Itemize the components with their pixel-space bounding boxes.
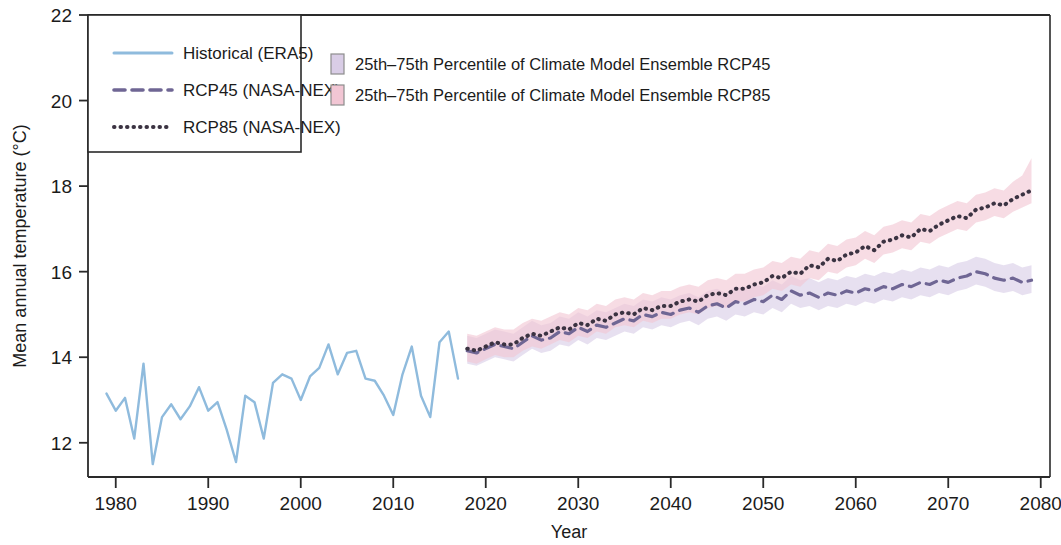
legend-layer: Historical (ERA5)RCP45 (NASA-NEX)RCP85 (… (0, 0, 1061, 545)
chart-page: 1214161820221980199020002010202020302040… (0, 0, 1061, 545)
legend-swatch-rcp85-band (331, 85, 344, 105)
legend-label-rcp45: RCP45 (NASA-NEX) (183, 81, 341, 100)
legend-band-entries: 25th–75th Percentile of Climate Model En… (331, 54, 770, 105)
legend-label-rcp85-band: 25th–75th Percentile of Climate Model En… (355, 86, 770, 104)
legend-label-rcp85: RCP85 (NASA-NEX) (183, 118, 341, 137)
legend-swatch-rcp45-band (331, 54, 344, 74)
legend-label-historical: Historical (ERA5) (183, 44, 313, 63)
legend-label-rcp45-band: 25th–75th Percentile of Climate Model En… (355, 55, 770, 73)
